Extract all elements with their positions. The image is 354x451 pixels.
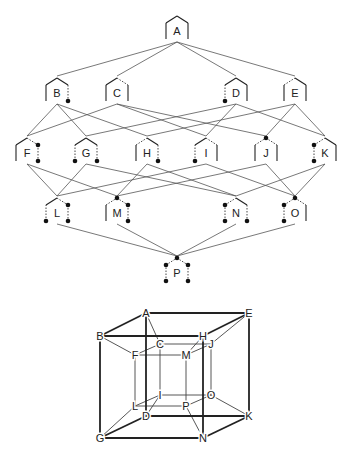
tesseract-vertex-O: O <box>207 389 216 401</box>
tesseract-vertex-J: J <box>208 338 214 350</box>
tesseract-edge-N-K <box>203 416 249 438</box>
hypercube-lattice-figure: ABCDEFGHIJKLMNOP AEBHCJFMIOLPDKGN <box>0 0 354 451</box>
tesseract-vertex-E: E <box>245 307 252 319</box>
tesseract-vertex-D: D <box>142 410 150 422</box>
tesseract-edge-A-B <box>100 313 146 336</box>
tesseract-vertex-K: K <box>245 410 253 422</box>
tesseract-vertex-M: M <box>181 349 190 361</box>
tesseract-projection: AEBHCJFMIOLPDKGN <box>0 0 354 451</box>
tesseract-edge-K-O <box>211 395 249 416</box>
tesseract-edge-B-F <box>100 336 135 355</box>
tesseract-vertex-B: B <box>96 330 103 342</box>
tesseract-edge-G-D <box>100 416 146 438</box>
tesseract-vertex-A: A <box>142 307 150 319</box>
tesseract-edge-H-E <box>203 313 249 336</box>
tesseract-edge-G-L <box>100 406 135 438</box>
tesseract-vertex-N: N <box>199 432 207 444</box>
tesseract-vertex-I: I <box>158 389 161 401</box>
tesseract-vertex-C: C <box>156 338 164 350</box>
tesseract-vertex-F: F <box>132 349 139 361</box>
tesseract-vertex-L: L <box>132 400 138 412</box>
tesseract-vertex-P: P <box>182 400 189 412</box>
tesseract-vertex-G: G <box>96 432 105 444</box>
tesseract-vertex-H: H <box>199 330 207 342</box>
tesseract-edges <box>100 313 249 438</box>
tesseract-vertex-labels: AEBHCJFMIOLPDKGN <box>96 307 254 444</box>
